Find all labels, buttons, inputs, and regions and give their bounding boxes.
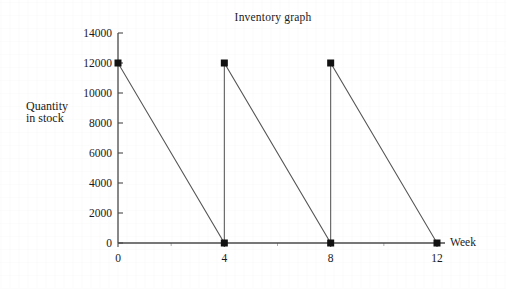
plot-area bbox=[0, 0, 506, 289]
data-point-marker bbox=[221, 240, 228, 247]
data-point-marker bbox=[221, 60, 228, 67]
data-series-layer bbox=[118, 63, 437, 243]
data-series-line bbox=[118, 63, 437, 243]
data-point-marker bbox=[434, 240, 441, 247]
data-point-marker bbox=[115, 60, 122, 67]
data-point-marker bbox=[327, 240, 334, 247]
data-point-marker bbox=[327, 60, 334, 67]
inventory-graph-chart: Inventory graph Quantity in stock Week 0… bbox=[0, 0, 506, 289]
axes-layer bbox=[118, 33, 445, 247]
